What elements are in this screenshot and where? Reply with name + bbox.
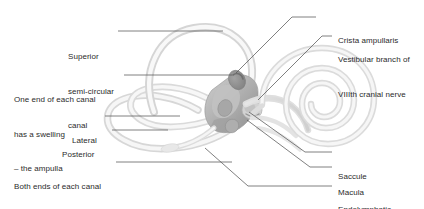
label-vestibular-branch-viiith-nerve: Vestibular branch of VIIIth cranial nerv… (338, 31, 410, 123)
leader-saccule (249, 112, 332, 152)
leader-crista (236, 17, 316, 73)
label-line: Superior (68, 51, 114, 63)
label-line: Endolymphatic (338, 204, 391, 209)
label-endolymphatic-duct: Endolymphatic duct (338, 181, 391, 209)
label-utricle-note: Both ends of each canal open into the ut… (14, 158, 101, 209)
label-line: Both ends of each canal (14, 181, 101, 193)
label-line: VIIIth cranial nerve (338, 89, 410, 101)
figure-canvas: Superior semi-circular canal One end of … (0, 0, 424, 209)
label-line: One end of each canal (14, 94, 96, 106)
leader-macula (247, 120, 332, 167)
leader-vestibular-nerve (258, 36, 332, 100)
label-line: Vestibular branch of (338, 54, 410, 66)
